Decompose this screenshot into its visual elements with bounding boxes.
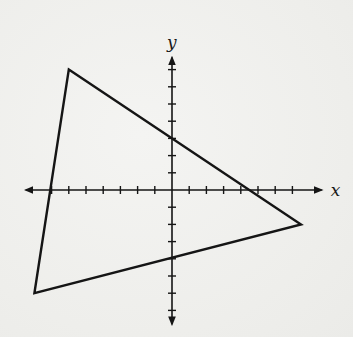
y-axis [168,58,176,325]
coordinate-plane-figure: x y [0,0,353,337]
triangle [34,70,301,294]
y-axis-label: y [166,32,177,52]
x-axis-label: x [331,180,341,200]
triangle-outline [34,70,301,294]
plot-canvas: x y [0,0,353,337]
x-axis [26,186,322,194]
